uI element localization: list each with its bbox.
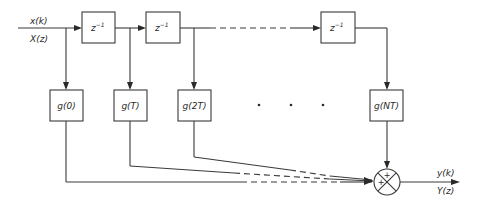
svg-text:g(T): g(T) [121, 101, 139, 111]
plus-sign-top: + [384, 171, 391, 180]
summer-input-lines [66, 121, 390, 185]
delay-block-2: z−1 [146, 12, 180, 43]
svg-text:g(2T): g(2T) [183, 101, 207, 111]
gain-block-2: g(2T) [178, 90, 211, 121]
summing-junction: + + [374, 169, 400, 195]
ellipsis-dots [258, 104, 325, 107]
output-z-label: Y(z) [437, 186, 454, 196]
fir-filter-diagram: x(k) X(z) z−1 z−1 z−1 g(0) [0, 0, 483, 208]
svg-text:g(NT): g(NT) [374, 101, 399, 111]
output-line [400, 179, 460, 185]
plus-sign-left: + [378, 178, 385, 187]
gain-block-1: g(T) [114, 90, 147, 121]
gain-block-n: g(NT) [370, 90, 403, 121]
gain-block-0: g(0) [50, 90, 83, 121]
svg-text:g(0): g(0) [57, 101, 75, 111]
input-time-label: x(k) [29, 16, 48, 26]
delay-block-n: z−1 [321, 12, 355, 43]
input-z-label: X(z) [29, 34, 48, 44]
delay-block-1: z−1 [82, 12, 115, 43]
output-time-label: y(k) [436, 168, 455, 178]
